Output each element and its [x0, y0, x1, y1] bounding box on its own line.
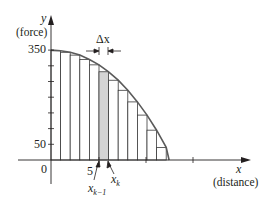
- work-riemann-sum-diagram: y (force) 350 50 0 5 x (distance) Δx xk−…: [0, 0, 270, 197]
- origin-label: 0: [41, 162, 47, 176]
- xk-minus-1-pointer: [94, 161, 100, 180]
- y-axis-label: y: [40, 11, 47, 25]
- delta-x-label: Δx: [96, 32, 110, 46]
- tick-label-5: 5: [87, 164, 93, 178]
- xk-label: xk: [110, 172, 120, 188]
- y-axis-arrow-icon: [48, 15, 54, 25]
- riemann-rectangle: [89, 65, 99, 160]
- delta-x-markers: [86, 47, 121, 55]
- riemann-rectangle: [137, 115, 147, 160]
- y-axis-unit-label: (force): [16, 26, 47, 39]
- x-axis-unit-label: (distance): [213, 176, 259, 189]
- riemann-rectangle: [51, 51, 61, 160]
- tick-label-350: 350: [28, 42, 46, 56]
- riemann-rectangles: [51, 51, 166, 160]
- riemann-rectangle: [157, 147, 167, 160]
- riemann-rectangle: [147, 130, 157, 160]
- riemann-rectangle: [61, 52, 71, 160]
- riemann-rectangle: [118, 90, 128, 160]
- x-axis-arrow-icon: [241, 157, 251, 163]
- riemann-rectangle: [109, 80, 119, 160]
- x-axis-label: x: [235, 162, 242, 176]
- riemann-rectangle: [80, 60, 90, 160]
- xk-minus-1-label: xk−1: [87, 181, 106, 197]
- riemann-rectangle: [128, 102, 138, 160]
- highlighted-rectangle: [99, 72, 109, 160]
- tick-label-50: 50: [34, 137, 46, 151]
- riemann-rectangle: [70, 55, 80, 160]
